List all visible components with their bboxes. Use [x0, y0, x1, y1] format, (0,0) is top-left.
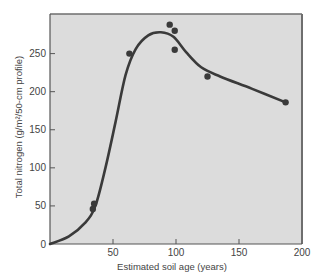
y-tick-label: 200	[29, 86, 46, 97]
y-tick-label: 150	[29, 124, 46, 135]
data-point	[172, 47, 178, 53]
y-tick-label: 250	[29, 48, 46, 59]
data-point	[282, 99, 288, 105]
y-tick-label: 0	[40, 239, 46, 250]
data-point	[167, 21, 173, 27]
data-point	[172, 28, 178, 34]
x-axis-title: Estimated soil age (years)	[117, 261, 227, 272]
nitrogen-soil-age-chart: 50100150200 050100150200250 Estimated so…	[0, 0, 317, 278]
y-tick-label: 100	[29, 162, 46, 173]
data-point	[204, 73, 210, 79]
x-tick-label: 200	[294, 247, 311, 258]
data-point	[91, 200, 97, 206]
y-axis-title: Total nitrogen (g/m²/50-cm profile)	[13, 56, 24, 199]
x-tick-label: 50	[107, 247, 119, 258]
x-tick-label: 150	[231, 247, 248, 258]
data-point	[126, 50, 132, 56]
x-tick-label: 100	[168, 247, 185, 258]
data-point	[90, 206, 96, 212]
y-tick-label: 50	[35, 200, 47, 211]
